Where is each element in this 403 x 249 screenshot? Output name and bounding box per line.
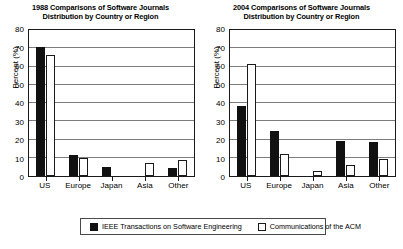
x-axis-labels: USEuropeJapanAsiaOther (229, 181, 396, 193)
legend-swatch-outlined-square (258, 223, 266, 231)
legend-entry-cacm: Communications of the ACM (258, 222, 361, 231)
x-axis-label: Asia (137, 181, 153, 190)
bar (313, 171, 323, 176)
x-axis-labels: USEuropeJapanAsiaOther (28, 181, 195, 193)
bar (369, 142, 379, 176)
plot-frame (229, 29, 396, 177)
charts-row: 1988 Comparisons of Software Journals Di… (0, 0, 403, 199)
y-axis-tick-label: 50 (216, 80, 225, 89)
x-axis-label: Europe (65, 181, 91, 190)
y-axis-tick-label: 10 (216, 154, 225, 163)
bar (145, 163, 155, 176)
chart-title-1988: 1988 Comparisons of Software Journals Di… (0, 0, 201, 21)
bar (280, 154, 290, 176)
y-axis-tick-label: 0 (221, 173, 225, 182)
bar (336, 141, 346, 176)
figure-two-bar-charts: 1988 Comparisons of Software Journals Di… (0, 0, 403, 249)
y-axis-ticks: 01020304050607080 (201, 21, 225, 199)
bar (178, 160, 188, 177)
y-axis-tick-label: 40 (15, 99, 24, 108)
y-axis-tick-label: 50 (15, 80, 24, 89)
bar (36, 47, 46, 176)
bar (168, 168, 178, 176)
bar (247, 64, 257, 176)
y-axis-tick-label: 60 (15, 62, 24, 71)
y-axis-tick-label: 20 (15, 136, 24, 145)
bar (46, 55, 56, 176)
y-axis-tick-label: 70 (216, 43, 225, 52)
legend-entry-ieee: IEEE Transactions on Software Engineerin… (90, 222, 242, 231)
chart-title-2004: 2004 Comparisons of Software Journals Di… (201, 0, 402, 21)
x-axis-label: Japan (101, 181, 123, 190)
y-axis-tick-label: 30 (15, 117, 24, 126)
bar (379, 159, 389, 176)
x-axis-label: Other (168, 181, 188, 190)
x-axis-label: Other (369, 181, 389, 190)
bar (237, 106, 247, 176)
y-axis-tick-label: 40 (216, 99, 225, 108)
y-axis-tick-label: 30 (216, 117, 225, 126)
bar (270, 131, 280, 176)
x-axis-label: US (39, 181, 50, 190)
bar (79, 158, 89, 176)
plot-area-1988: Percent (%) 01020304050607080 USEuropeJa… (0, 21, 201, 199)
chart-title-line1: 1988 Comparisons of Software Journals (0, 3, 201, 12)
bar (102, 167, 112, 176)
bars-group (29, 30, 194, 176)
chart-title-line1: 2004 Comparisons of Software Journals (201, 3, 402, 12)
y-axis-tick-label: 80 (216, 25, 225, 34)
y-axis-ticks: 01020304050607080 (0, 21, 24, 199)
plot-frame (28, 29, 195, 177)
chart-legend: IEEE Transactions on Software Engineerin… (80, 218, 326, 235)
y-axis-tick-label: 0 (20, 173, 24, 182)
y-axis-tick-label: 80 (15, 25, 24, 34)
legend-label: IEEE Transactions on Software Engineerin… (102, 222, 242, 231)
bar (69, 155, 79, 176)
x-axis-label: US (240, 181, 251, 190)
x-axis-label: Europe (266, 181, 292, 190)
bars-group (230, 30, 395, 176)
bar (346, 165, 356, 176)
x-axis-label: Japan (302, 181, 324, 190)
y-axis-tick-label: 60 (216, 62, 225, 71)
x-axis-label: Asia (338, 181, 354, 190)
chart-panel-1988: 1988 Comparisons of Software Journals Di… (0, 0, 201, 199)
y-axis-tick-label: 70 (15, 43, 24, 52)
legend-label: Communications of the ACM (270, 222, 361, 231)
y-axis-tick-label: 10 (15, 154, 24, 163)
chart-panel-2004: 2004 Comparisons of Software Journals Di… (201, 0, 402, 199)
legend-swatch-filled-square (90, 223, 98, 231)
y-axis-tick-label: 20 (216, 136, 225, 145)
plot-area-2004: Percent (%) 01020304050607080 USEuropeJa… (201, 21, 402, 199)
